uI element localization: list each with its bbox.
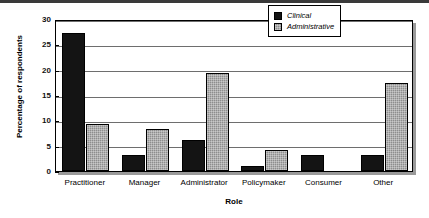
y-axis-tick-mark — [55, 20, 59, 21]
legend-label-clinical: Clinical — [287, 11, 311, 20]
y-axis-title: Percentage of respondents — [15, 12, 24, 162]
plot-area — [55, 20, 413, 172]
x-axis-label-other: Other — [353, 178, 413, 187]
x-axis-label-manager: Manager — [115, 178, 175, 187]
y-axis-tick-label: 5 — [29, 143, 51, 151]
bar-administrator-administrative — [206, 73, 229, 171]
y-axis-tick-label: 25 — [29, 41, 51, 49]
bars-layer — [56, 21, 412, 171]
legend-swatch-clinical-icon — [274, 12, 282, 20]
bar-manager-clinical — [122, 155, 145, 171]
bar-consumer-clinical — [301, 155, 324, 171]
bar-policymaker-clinical — [241, 166, 264, 171]
y-axis-tick-label: 20 — [29, 67, 51, 75]
legend-label-administrative: Administrative — [287, 22, 334, 31]
y-axis-tick-labels: 051015202530 — [29, 20, 51, 172]
bar-practitioner-clinical — [62, 33, 85, 171]
bar-other-administrative — [385, 83, 408, 171]
y-axis-tick-mark — [55, 121, 59, 122]
bar-chart: Percentage of respondents 051015202530 P… — [0, 0, 429, 218]
x-axis-label-practitioner: Practitioner — [55, 178, 115, 187]
x-axis-label-consumer: Consumer — [294, 178, 354, 187]
legend-item-administrative: Administrative — [274, 21, 334, 32]
bar-other-clinical — [361, 155, 384, 171]
chart-legend: Clinical Administrative — [268, 5, 341, 37]
y-axis-tick-mark — [55, 96, 59, 97]
y-axis-tick-mark — [55, 45, 59, 46]
y-axis-tick-mark — [55, 147, 59, 148]
legend-swatch-administrative-icon — [274, 23, 282, 31]
y-axis-tick-mark — [55, 71, 59, 72]
y-axis-tick-label: 15 — [29, 92, 51, 100]
x-axis-title: Role — [55, 197, 413, 206]
y-axis-tick-label: 0 — [29, 168, 51, 176]
bar-administrator-clinical — [182, 140, 205, 171]
y-axis-tick-mark — [55, 172, 59, 173]
y-axis-tick-label: 10 — [29, 117, 51, 125]
chart-figure: Percentage of respondents 051015202530 P… — [0, 0, 429, 218]
bar-manager-administrative — [146, 129, 169, 171]
bar-practitioner-administrative — [86, 124, 109, 171]
x-axis-label-administrator: Administrator — [174, 178, 234, 187]
y-axis-tick-label: 30 — [29, 16, 51, 24]
x-axis-label-policymaker: Policymaker — [234, 178, 294, 187]
legend-item-clinical: Clinical — [274, 10, 334, 21]
bar-policymaker-administrative — [265, 150, 288, 171]
